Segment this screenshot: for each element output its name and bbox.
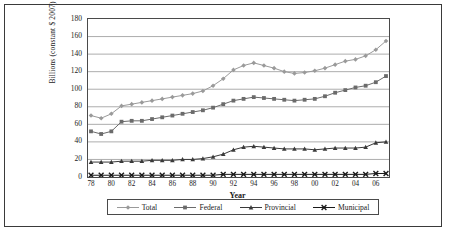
line-federal [91,76,386,134]
marker-diamond [180,93,185,98]
marker-square [181,112,185,116]
marker-square [313,97,317,101]
marker-diamond [312,68,317,73]
x-tick-88: 88 [183,181,203,188]
marker-diamond [251,61,256,66]
marker-diamond [282,69,287,74]
marker-square [201,108,205,112]
series-municipal [89,171,389,177]
legend-swatch-diamond-icon [117,203,139,211]
x-tick-04: 04 [345,181,365,188]
marker-square [170,114,174,118]
marker-square [343,88,347,92]
marker-square [252,95,256,99]
legend-swatch-triangle-icon [240,203,262,211]
x-tick-84: 84 [142,181,162,188]
x-tick-82: 82 [122,181,142,188]
x-tick-94: 94 [244,181,264,188]
y-tick-80: 80 [56,102,82,109]
marker-square [282,98,286,102]
chart-legend: TotalFederalProvincialMunicipal [107,199,379,215]
marker-diamond [125,205,130,210]
x-tick-98: 98 [284,181,304,188]
marker-square [140,119,144,123]
marker-square [120,120,124,124]
series-total [89,39,389,121]
legend-item-federal[interactable]: Federal [174,203,222,212]
x-tick-00: 00 [305,181,325,188]
x-tick-86: 86 [162,181,182,188]
y-tick-40: 40 [56,137,82,144]
marker-diamond [353,57,358,62]
marker-diamond [343,59,348,64]
marker-square [221,102,225,106]
y-tick-180: 180 [56,15,82,22]
plot-area [87,18,390,178]
series-provincial [89,139,389,163]
x-tick-90: 90 [203,181,223,188]
line-provincial [91,142,386,162]
marker-diamond [99,116,104,121]
marker-diamond [150,98,155,103]
marker-square [272,97,276,101]
legend-item-total[interactable]: Total [117,203,158,212]
marker-diamond [333,62,338,67]
y-tick-0: 0 [56,173,82,180]
x-tick-92: 92 [223,181,243,188]
marker-square [191,110,195,114]
marker-square [89,129,93,133]
marker-square [150,117,154,121]
legend-item-provincial[interactable]: Provincial [240,203,296,212]
marker-square [130,119,134,123]
marker-square [184,206,188,210]
legend-label: Municipal [338,203,369,212]
marker-square [384,74,388,78]
marker-square [262,96,266,100]
chart-figure: Billions (constant $ 2007) 0204060801001… [0,0,450,233]
legend-item-municipal[interactable]: Municipal [313,203,369,212]
marker-square [323,94,327,98]
legend-swatch-x-icon [313,203,335,211]
marker-diamond [241,63,246,68]
line-municipal [91,173,386,175]
y-tick-160: 160 [56,32,82,39]
series-canvas [88,19,389,177]
x-tick-02: 02 [325,181,345,188]
legend-label: Federal [199,203,222,212]
x-tick-78: 78 [81,181,101,188]
marker-diamond [170,95,175,100]
marker-diamond [160,97,165,102]
marker-square [374,80,378,84]
marker-diamond [190,91,195,96]
marker-square [354,86,358,90]
marker-square [211,106,215,110]
legend-label: Total [142,203,158,212]
marker-diamond [129,102,134,107]
marker-square [232,99,236,103]
marker-square [99,132,103,136]
marker-square [333,91,337,95]
x-tick-06: 06 [366,181,386,188]
marker-diamond [272,66,277,71]
marker-square [293,99,297,103]
marker-square [160,115,164,119]
y-tick-140: 140 [56,50,82,57]
marker-square [303,98,307,102]
x-tick-96: 96 [264,181,284,188]
marker-diamond [89,113,94,118]
y-tick-20: 20 [56,155,82,162]
series-federal [89,74,388,136]
marker-square [364,84,368,88]
x-tick-80: 80 [101,181,121,188]
y-tick-60: 60 [56,120,82,127]
marker-diamond [140,100,145,105]
y-tick-100: 100 [56,85,82,92]
marker-square [109,129,113,133]
legend-label: Provincial [265,203,296,212]
y-tick-120: 120 [56,67,82,74]
marker-diamond [302,70,307,75]
legend-swatch-square-icon [174,203,196,211]
marker-diamond [323,66,328,71]
marker-square [242,97,246,101]
marker-diamond [262,63,267,68]
